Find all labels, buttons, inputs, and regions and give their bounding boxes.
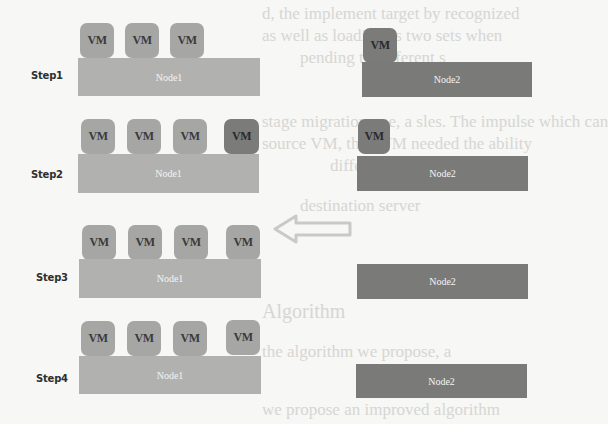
vm-block-migrated: VM <box>226 225 260 260</box>
bleed-heading: Algorithm <box>262 300 345 323</box>
bleed-line: we propose an improved algorithm <box>262 400 500 420</box>
bleed-line: d, the implement target by recognized <box>262 4 519 24</box>
node1-block: Node1 <box>79 356 261 394</box>
vm-block-dark: VM <box>358 119 390 154</box>
vm-block: VM <box>174 225 208 260</box>
node1-block: Node1 <box>79 259 261 298</box>
step-label: Step3 <box>36 272 68 283</box>
vm-block: VM <box>127 321 161 356</box>
vm-block-migrating: VM <box>224 119 259 154</box>
vm-block: VM <box>170 23 204 58</box>
vm-block: VM <box>125 23 159 58</box>
vm-block: VM <box>80 23 114 58</box>
node1-block: Node1 <box>78 154 259 193</box>
vm-block: VM <box>82 225 116 260</box>
vm-block: VM <box>128 225 162 260</box>
arrow-left-icon <box>272 213 354 245</box>
bleed-line: source VM, then VM needed the ability <box>262 134 532 154</box>
node2-block: Node2 <box>362 62 532 97</box>
node1-block: Node1 <box>78 58 260 96</box>
bleed-line: the algorithm we propose, a <box>262 342 451 362</box>
node2-block: Node2 <box>357 264 528 299</box>
step-label: Step1 <box>31 70 63 81</box>
vm-block: VM <box>81 119 115 154</box>
vm-block-dark: VM <box>363 28 397 63</box>
step-label: Step4 <box>36 373 68 384</box>
vm-block: VM <box>173 321 207 356</box>
bleed-line: stage migration one, a sles. The impulse… <box>262 112 608 132</box>
node2-block: Node2 <box>357 156 528 191</box>
node2-block: Node2 <box>356 364 527 398</box>
vm-block: VM <box>173 119 207 154</box>
vm-block: VM <box>226 320 260 355</box>
step-label: Step2 <box>31 169 63 180</box>
vm-block: VM <box>81 321 115 356</box>
vm-block: VM <box>127 119 161 154</box>
